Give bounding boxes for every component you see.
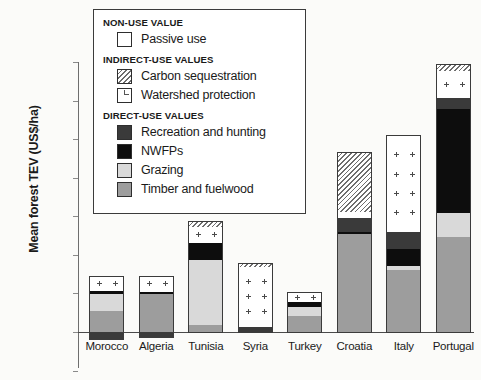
legend-item-passive[interactable]: Passive use xyxy=(117,30,299,48)
cross-marker xyxy=(147,281,152,286)
bar-italy[interactable] xyxy=(386,62,421,368)
cross-marker xyxy=(212,232,217,237)
legend-swatch-passive-icon xyxy=(117,32,132,47)
legend-item-label: Carbon sequestration xyxy=(141,69,257,83)
legend-swatch-nwfp-icon xyxy=(117,144,132,159)
legend-group-heading: INDIRECT-USE VALUES xyxy=(103,54,299,65)
legend-swatch-watershed-icon xyxy=(117,88,132,103)
segment-nwfp xyxy=(436,108,471,213)
legend-item-recreation[interactable]: Recreation and hunting xyxy=(117,123,299,141)
cross-marker xyxy=(410,191,415,196)
cross-marker xyxy=(262,294,267,299)
legend-group-heading: NON-USE VALUE xyxy=(103,17,299,28)
x-tick-label-syria: Syria xyxy=(231,340,281,352)
legend-item-label: Timber and fuelwood xyxy=(141,182,253,196)
segment-recreation xyxy=(337,217,372,232)
segment-carbon xyxy=(337,152,372,212)
legend-item-nwfp[interactable]: NWFPs xyxy=(117,142,299,160)
segment-timber xyxy=(139,293,174,333)
segment-watershed xyxy=(238,266,273,327)
segment-watershed xyxy=(436,70,471,97)
segment-nwfp xyxy=(188,242,223,260)
segment-negative xyxy=(139,332,174,338)
segment-carbon xyxy=(238,263,273,266)
segment-recreation xyxy=(238,326,273,333)
y-tick xyxy=(73,62,78,63)
x-tick-label-croatia: Croatia xyxy=(330,340,380,352)
segment-recreation xyxy=(386,231,421,249)
segment-grazing xyxy=(188,259,223,326)
cross-marker xyxy=(97,281,102,286)
legend-item-carbon[interactable]: Carbon sequestration xyxy=(117,67,299,85)
legend-item-label: Recreation and hunting xyxy=(141,125,266,139)
cross-marker xyxy=(394,191,399,196)
legend-item-label: Passive use xyxy=(141,32,206,46)
y-tick xyxy=(73,293,78,294)
y-axis-tick-labels: -50050100150200250300350 xyxy=(0,62,1,368)
x-tick-label-portugal: Portugal xyxy=(429,340,479,352)
y-tick xyxy=(73,332,78,333)
cross-marker xyxy=(246,309,251,314)
cross-marker xyxy=(246,279,251,284)
cross-marker xyxy=(311,295,316,300)
cross-marker xyxy=(410,152,415,157)
segment-timber xyxy=(89,310,124,333)
legend-swatch-carbon-icon xyxy=(117,69,132,84)
legend-item-label: NWFPs xyxy=(141,144,183,158)
x-tick-label-tunisia: Tunisia xyxy=(181,340,231,352)
y-axis-title: Mean forest TEV (US$/ha) xyxy=(27,49,41,309)
segment-timber xyxy=(436,236,471,333)
segment-negative xyxy=(89,332,124,340)
segment-timber xyxy=(188,324,223,333)
cross-marker xyxy=(196,232,201,237)
x-tick-label-morocco: Morocco xyxy=(82,340,132,352)
y-tick xyxy=(73,255,78,256)
cross-marker xyxy=(113,281,118,286)
cross-marker xyxy=(394,172,399,177)
cross-marker xyxy=(262,279,267,284)
y-tick xyxy=(73,216,78,217)
legend-item-label: Watershed protection xyxy=(141,88,255,102)
forest-tev-chart: Mean forest TEV (US$/ha) -50050100150200… xyxy=(0,0,481,380)
segment-carbon xyxy=(188,221,223,227)
segment-timber xyxy=(287,315,322,333)
segment-grazing xyxy=(287,306,322,316)
segment-watershed xyxy=(139,276,174,292)
cross-marker xyxy=(246,294,251,299)
cross-marker xyxy=(295,295,300,300)
cross-marker xyxy=(394,152,399,157)
segment-timber xyxy=(337,233,372,333)
segment-watershed xyxy=(89,276,124,291)
cross-marker xyxy=(444,82,449,87)
segment-grazing xyxy=(436,212,471,236)
legend-item-label: Grazing xyxy=(141,163,183,177)
legend-swatch-grazing-icon xyxy=(117,163,132,178)
y-tick xyxy=(73,371,78,372)
legend-group-heading: DIRECT-USE VALUES xyxy=(103,110,299,121)
y-axis-line xyxy=(78,62,79,368)
x-tick-label-italy: Italy xyxy=(379,340,429,352)
segment-timber xyxy=(386,269,421,333)
bar-portugal[interactable] xyxy=(436,62,471,368)
bar-croatia[interactable] xyxy=(337,62,372,368)
x-tick-label-algeria: Algeria xyxy=(132,340,182,352)
cross-marker xyxy=(410,210,415,215)
segment-recreation xyxy=(436,97,471,110)
segment-carbon xyxy=(436,64,471,72)
legend-item-watershed[interactable]: Watershed protection xyxy=(117,86,299,104)
segment-watershed xyxy=(188,226,223,242)
cross-marker xyxy=(460,82,465,87)
legend-item-grazing[interactable]: Grazing xyxy=(117,161,299,179)
segment-watershed xyxy=(386,135,421,232)
cross-marker xyxy=(394,210,399,215)
legend-swatch-timber-icon xyxy=(117,182,132,197)
cross-marker xyxy=(163,281,168,286)
legend-item-timber[interactable]: Timber and fuelwood xyxy=(117,180,299,198)
segment-watershed xyxy=(287,292,322,302)
y-tick xyxy=(73,178,78,179)
cross-marker xyxy=(262,309,267,314)
x-tick-label-turkey: Turkey xyxy=(280,340,330,352)
y-tick xyxy=(73,139,78,140)
segment-nwfp xyxy=(386,248,421,266)
legend-swatch-recreation-icon xyxy=(117,125,132,140)
